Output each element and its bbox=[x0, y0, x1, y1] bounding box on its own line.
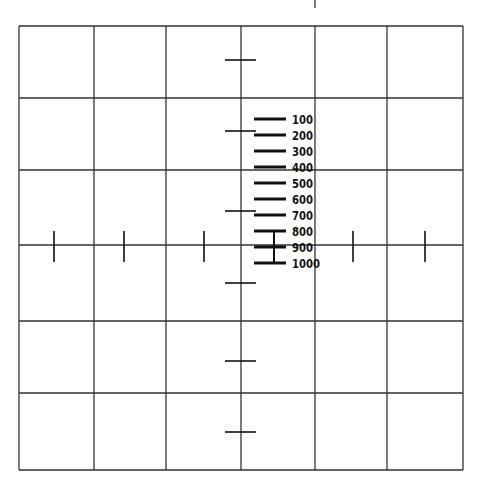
range-label-800: 800 bbox=[292, 225, 313, 239]
range-label-400: 400 bbox=[292, 161, 313, 175]
reticle-grid bbox=[19, 26, 463, 470]
range-label-700: 700 bbox=[292, 209, 313, 223]
range-label-300: 300 bbox=[292, 145, 313, 159]
range-label-600: 600 bbox=[292, 193, 313, 207]
range-scale: 1002003004005006007008009001000 bbox=[254, 113, 320, 271]
range-label-100: 100 bbox=[292, 113, 313, 127]
reticle-diagram: 1002003004005006007008009001000 bbox=[0, 0, 479, 491]
range-label-200: 200 bbox=[292, 129, 313, 143]
range-label-900: 900 bbox=[292, 241, 313, 255]
range-label-1000: 1000 bbox=[292, 257, 320, 271]
reticle-ticks bbox=[54, 0, 425, 432]
range-label-500: 500 bbox=[292, 177, 313, 191]
